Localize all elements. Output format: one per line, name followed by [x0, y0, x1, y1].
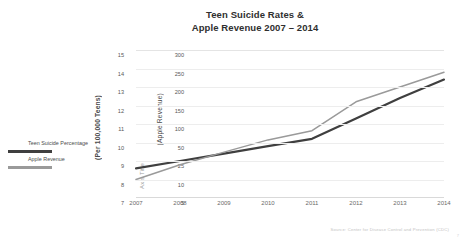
plot-area: [136, 50, 444, 198]
gridline: [136, 106, 444, 107]
title-line-1: Teen Suicide Rates &: [150, 8, 360, 21]
legend-swatch: [8, 150, 52, 153]
chart-container: (Per 100,000 Teens) (Apple Revenue) Axis…: [36, 45, 448, 197]
primary-tick-label: 10: [118, 145, 124, 151]
x-axis-labels: 20072008200920102011201220132014: [136, 200, 446, 212]
x-axis-tick-label: 2008: [173, 200, 186, 206]
primary-tick-label: 9: [121, 163, 124, 169]
legend-label: Apple Revenue: [28, 156, 65, 162]
page-number: 7: [457, 233, 459, 238]
legend-item[interactable]: Teen Suicide Percentage: [6, 140, 98, 156]
x-axis-tick-label: 2007: [129, 200, 142, 206]
primary-tick-label: 14: [118, 71, 124, 77]
legend-swatch: [8, 166, 52, 169]
primary-tick-label: 11: [118, 126, 124, 132]
primary-tick-label: 15: [118, 52, 124, 58]
gridline: [136, 69, 444, 70]
primary-tick-label: 12: [118, 108, 124, 114]
primary-tick-label: 13: [118, 89, 124, 95]
slide-canvas: Teen Suicide Rates & Apple Revenue 2007 …: [0, 0, 463, 240]
source-note: Source: Center for Disease Control and P…: [330, 227, 449, 232]
x-axis-tick-label: 2012: [349, 200, 362, 206]
series-line: [136, 72, 444, 179]
x-axis-tick-label: 2010: [261, 200, 274, 206]
gridline: [136, 124, 444, 125]
primary-tick-label: 7: [121, 200, 124, 206]
primary-tick-label: 8: [121, 182, 124, 188]
title-line-2: Apple Revenue 2007 – 2014: [150, 21, 360, 34]
chart-legend: Teen Suicide PercentageApple Revenue: [6, 140, 98, 172]
x-axis-tick-label: 2011: [306, 200, 319, 206]
page-title: Teen Suicide Rates & Apple Revenue 2007 …: [150, 8, 360, 34]
gridline: [136, 143, 444, 144]
primary-axis-ticks: 151413121110987: [104, 50, 124, 198]
x-axis-tick-label: 2009: [217, 200, 230, 206]
x-axis-tick-label: 2013: [393, 200, 406, 206]
legend-item[interactable]: Apple Revenue: [6, 156, 98, 172]
gridline: [136, 180, 444, 181]
gridline: [136, 161, 444, 162]
gridline: [136, 87, 444, 88]
legend-label: Teen Suicide Percentage: [28, 140, 88, 146]
x-axis-tick-label: 2014: [437, 200, 450, 206]
